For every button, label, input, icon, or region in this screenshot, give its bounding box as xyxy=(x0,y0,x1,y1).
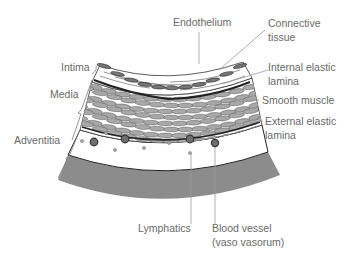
smooth-muscle-cell xyxy=(72,78,89,85)
label-blood-vessel-1: Blood vessel xyxy=(212,222,272,234)
smooth-muscle-cell xyxy=(163,115,179,120)
smooth-muscle-cell xyxy=(172,133,188,138)
label-lymphatics: Lymphatics xyxy=(138,222,191,234)
label-external-elastic-1: External elastic xyxy=(265,115,336,127)
lymphatic-vessel xyxy=(206,129,209,132)
label-media: Media xyxy=(50,88,79,100)
smooth-muscle-cell xyxy=(157,133,173,138)
blood-vessel xyxy=(211,139,218,146)
lymphatic-vessel xyxy=(168,142,171,145)
label-smooth-muscle: Smooth muscle xyxy=(262,94,335,106)
blood-vessel xyxy=(90,138,98,146)
smooth-muscle-cell xyxy=(172,121,188,126)
label-connective-tissue-2: tissue xyxy=(268,31,296,43)
smooth-muscle-cell xyxy=(149,126,165,131)
smooth-muscle-cell xyxy=(149,114,165,119)
smooth-muscle-cell xyxy=(143,120,159,125)
smooth-muscle-cell xyxy=(143,108,159,113)
label-endothelium: Endothelium xyxy=(173,16,232,28)
label-connective-tissue-1: Connective xyxy=(268,17,321,29)
lymphatic-vessel xyxy=(80,139,83,142)
label-adventitia: Adventitia xyxy=(14,134,60,146)
smooth-muscle-cell xyxy=(192,126,208,131)
smooth-muscle-cell xyxy=(186,108,202,113)
endothelial-cell xyxy=(165,86,179,90)
smooth-muscle-cell xyxy=(186,120,202,125)
label-internal-elastic-1: Internal elastic xyxy=(268,61,336,73)
smooth-muscle-cell xyxy=(157,121,173,126)
smooth-muscle-cell xyxy=(163,127,179,132)
smooth-muscle-cell xyxy=(178,115,194,120)
blood-vessel xyxy=(121,135,129,143)
lymphatic-vessel xyxy=(104,131,107,134)
smooth-muscle-cell xyxy=(163,103,179,108)
label-intima: Intima xyxy=(61,61,90,73)
label-internal-elastic-2: lamina xyxy=(268,75,299,87)
smooth-muscle-cell xyxy=(178,127,194,132)
label-external-elastic-2: lamina xyxy=(265,129,296,141)
artery-wall-diagram: Endothelium Connective tissue Internal e… xyxy=(0,0,344,254)
smooth-muscle-cell xyxy=(157,109,173,114)
label-blood-vessel-2: (vaso vasorum) xyxy=(212,236,284,248)
smooth-muscle-cell xyxy=(172,109,188,114)
lymphatic-vessel xyxy=(114,149,117,152)
smooth-muscle-cell xyxy=(192,102,208,107)
smooth-muscle-cell xyxy=(178,103,194,108)
smooth-muscle-cell xyxy=(192,114,208,119)
blood-vessel xyxy=(186,135,194,143)
smooth-muscle-cell xyxy=(149,102,165,107)
smooth-muscle-cell xyxy=(143,132,159,137)
lymphatic-vessel xyxy=(143,147,146,150)
